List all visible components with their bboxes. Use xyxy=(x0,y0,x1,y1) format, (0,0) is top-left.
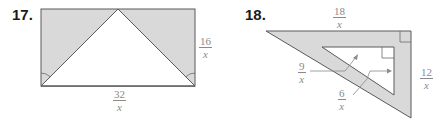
label-12-over-x: 12 x xyxy=(420,67,433,90)
label-16-over-x: 16 x xyxy=(199,36,212,59)
label-18-over-x: 18 x xyxy=(333,6,346,29)
problem-number-17: 17. xyxy=(12,6,33,23)
diagram-canvas xyxy=(0,0,441,123)
label-32-over-x: 32 x xyxy=(113,89,126,112)
label-9-over-x: 9 x xyxy=(298,61,306,84)
figure-17 xyxy=(41,9,195,86)
problem-number-18: 18. xyxy=(245,6,266,23)
label-6-over-x: 6 x xyxy=(338,88,346,111)
